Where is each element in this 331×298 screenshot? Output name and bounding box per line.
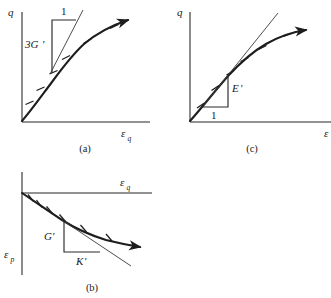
panel-a-curve-tickmarks xyxy=(26,25,119,105)
panel-a-x-axis-label-subscript: q xyxy=(128,134,132,143)
panel-c-caption: (c) xyxy=(246,143,258,155)
panel-a-slope-label-prime: ′ xyxy=(42,38,45,50)
panel-b-x-axis-label: ε xyxy=(120,176,125,188)
panel-c-slope-label: E xyxy=(231,82,239,94)
panel-a-y-axis-label: q xyxy=(8,6,14,18)
panel-b: ε p ε q G ′ K ′ xyxy=(4,172,152,294)
panel-b-horizontal-label-prime: ′ xyxy=(84,255,87,267)
panel-a-caption: (a) xyxy=(79,143,91,155)
figure-svg: q ε q 3G ′ 1 xyxy=(0,0,331,298)
panel-c-slope-label-prime: ′ xyxy=(240,82,243,94)
panel-b-y-axis-label-subscript: p xyxy=(10,255,15,264)
panel-c-unit-label: 1 xyxy=(211,109,217,121)
panel-c-x-axis-label: ε xyxy=(324,127,329,139)
figure-container: q ε q 3G ′ 1 xyxy=(0,0,331,298)
panel-b-vertical-label-prime: ′ xyxy=(52,230,55,242)
panel-c: q ε E ′ 1 (c) xyxy=(177,6,331,155)
panel-a: q ε q 3G ′ 1 xyxy=(8,5,150,155)
panel-b-vertical-label: G xyxy=(44,230,52,242)
panel-b-horizontal-label: K xyxy=(75,255,84,267)
panel-c-y-axis-label: q xyxy=(177,6,183,18)
panel-b-y-axis-label: ε xyxy=(4,248,9,260)
panel-a-slope-label: 3G xyxy=(24,38,39,50)
panel-b-curve-tickmarks xyxy=(28,195,112,242)
panel-a-curve xyxy=(22,20,128,121)
panel-a-unit-label: 1 xyxy=(61,5,67,17)
panel-b-caption: (b) xyxy=(86,282,99,294)
panel-b-curve xyxy=(22,193,140,247)
panel-a-x-axis-label: ε xyxy=(121,127,126,139)
panel-b-x-axis-label-subscript: q xyxy=(127,183,131,192)
